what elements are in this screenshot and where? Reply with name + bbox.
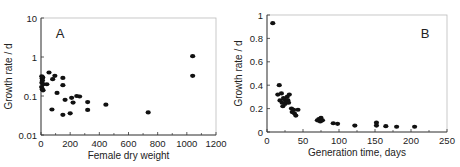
y-tick-label: 0.4 <box>250 80 263 91</box>
x-tick-label: 0 <box>264 135 269 146</box>
x-tick-label: 250 <box>439 135 455 146</box>
y-tick-label: 0.1 <box>24 91 37 102</box>
y-tick-label: 0 <box>258 127 263 138</box>
chart-a: 0200400600800100012000.010.1110Female dr… <box>3 13 227 162</box>
data-point <box>394 125 399 129</box>
data-point <box>46 70 51 74</box>
panel-label: A <box>56 26 65 41</box>
data-point <box>54 91 59 95</box>
y-tick-label: 1 <box>32 52 37 63</box>
panel-label: B <box>421 26 430 41</box>
x-tick-label: 50 <box>298 135 309 146</box>
y-axis-label: Growth rate / d <box>3 43 14 109</box>
y-tick-label: 10 <box>26 13 37 24</box>
x-tick-label: 200 <box>62 138 78 149</box>
x-tick-label: 600 <box>121 138 137 149</box>
x-tick-label: 0 <box>38 138 43 149</box>
data-point <box>68 111 73 115</box>
data-point <box>352 123 357 127</box>
x-tick-label: 100 <box>331 135 347 146</box>
data-point <box>52 74 57 78</box>
chart-b: 05010015020025000.20.40.60.81Generation … <box>233 10 455 159</box>
y-tick-label: 1 <box>258 10 263 21</box>
x-tick-label: 800 <box>150 138 166 149</box>
y-tick-label: 0.2 <box>250 103 263 114</box>
data-point <box>70 100 75 104</box>
data-point <box>190 54 195 58</box>
data-point <box>331 121 336 125</box>
data-point <box>279 91 284 95</box>
data-point <box>40 75 45 79</box>
data-point <box>293 114 298 118</box>
data-point <box>60 76 65 80</box>
y-tick-label: 0.6 <box>250 56 263 67</box>
y-axis-label: Growth rate / d <box>233 40 244 106</box>
data-point <box>62 98 67 102</box>
data-point <box>412 125 417 129</box>
x-tick-label: 400 <box>91 138 107 149</box>
data-point <box>85 108 90 112</box>
data-point <box>190 74 195 78</box>
data-point <box>77 94 82 98</box>
data-point <box>85 100 90 104</box>
data-point <box>281 96 286 100</box>
x-axis-label: Generation time, days <box>308 147 406 158</box>
x-tick-label: 150 <box>367 135 383 146</box>
data-point <box>286 101 291 105</box>
data-point <box>103 103 108 107</box>
x-tick-label: 1000 <box>176 138 197 149</box>
charts-canvas: 0200400600800100012000.010.1110Female dr… <box>0 0 460 167</box>
data-point <box>40 88 45 92</box>
data-point <box>374 123 379 127</box>
data-point <box>44 82 49 86</box>
y-tick-label: 0.8 <box>250 33 263 44</box>
data-point <box>295 108 300 112</box>
data-point <box>270 21 275 25</box>
data-point <box>69 96 74 100</box>
y-tick-label: 0.01 <box>19 130 38 141</box>
data-point <box>287 92 292 96</box>
data-point <box>320 118 325 122</box>
data-point <box>277 83 282 87</box>
data-point <box>60 83 65 87</box>
plot-frame <box>41 18 216 135</box>
x-axis-label: Female dry weight <box>88 150 170 161</box>
data-point <box>49 107 54 111</box>
data-point <box>146 110 151 114</box>
data-point <box>383 124 388 128</box>
data-point <box>335 122 340 126</box>
x-tick-label: 1200 <box>205 138 226 149</box>
x-tick-label: 200 <box>403 135 419 146</box>
data-point <box>60 113 65 117</box>
